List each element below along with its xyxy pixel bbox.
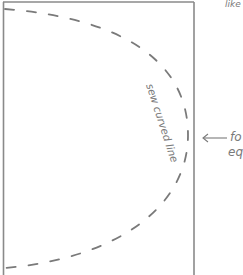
sewing-diagram: sew curved line fo eq like — [0, 0, 243, 275]
curved-sew-line — [5, 9, 188, 268]
top-right-text-fragment: like — [225, 0, 241, 9]
fold-label-line1: fo — [230, 130, 242, 144]
fold-label-line2: eq — [228, 145, 243, 159]
fold-arrow-icon — [203, 134, 227, 142]
curve-label: sew curved line — [144, 82, 181, 164]
